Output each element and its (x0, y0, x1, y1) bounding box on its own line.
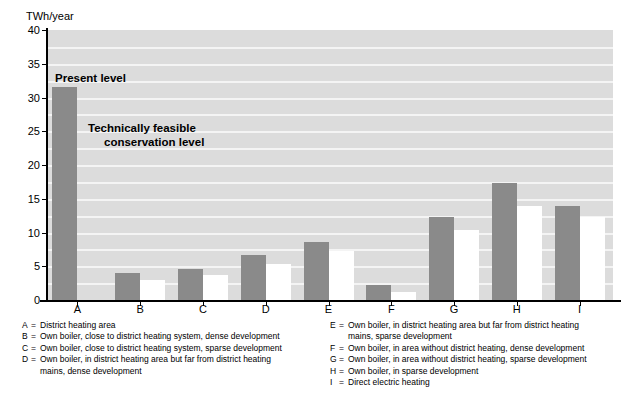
annotation-present-level: Present level (55, 71, 126, 85)
legend-equals: = (339, 343, 348, 354)
bar-present-level (429, 217, 454, 300)
y-tick-mark (42, 165, 47, 166)
bar-conservation-level (266, 264, 291, 300)
gridline (48, 182, 613, 184)
y-tick-mark (42, 64, 47, 65)
legend-equals: = (31, 331, 40, 342)
legend-description-continued: mains, sparse development (348, 331, 579, 342)
x-tick-mark (266, 302, 267, 306)
gridline (48, 81, 613, 83)
legend-entry-h: H=Own boiler, in sparse development (330, 366, 630, 377)
annotation-conservation-line2: conservation level (104, 135, 204, 149)
bar-present-level (366, 285, 391, 300)
y-tick-label: 20 (0, 160, 40, 171)
legend-key: C (22, 343, 31, 354)
bar-conservation-level (329, 251, 354, 300)
y-tick-label: 35 (0, 59, 40, 70)
y-tick-label: 10 (0, 228, 40, 239)
gridline (48, 64, 613, 66)
x-tick-mark (203, 302, 204, 306)
legend-key: E (330, 320, 339, 331)
legend-equals: = (339, 377, 348, 388)
annotation-conservation-line1: Technically feasible (88, 122, 196, 134)
legend-column-right: E=Own boiler, in district heating area b… (330, 320, 630, 388)
bar-present-level (304, 242, 329, 300)
legend-description: Own boiler, close to district heating sy… (40, 343, 282, 354)
legend-equals: = (31, 343, 40, 354)
x-tick-mark (329, 302, 330, 306)
gridline (48, 47, 613, 49)
plot-area (48, 30, 613, 300)
legend-equals: = (339, 354, 348, 365)
bar-conservation-level (517, 206, 542, 300)
legend-entry-d: D=Own boiler, in district heating area b… (22, 354, 322, 377)
bar-present-level (241, 255, 266, 300)
legend-entry-e: E=Own boiler, in district heating area b… (330, 320, 630, 343)
x-tick-mark (517, 302, 518, 306)
annotation-conservation-level: Technically feasible conservation level (88, 121, 204, 149)
legend-description: District heating area (40, 320, 116, 331)
legend-key: G (330, 354, 339, 365)
legend-equals: = (31, 320, 40, 331)
y-tick-mark (42, 30, 47, 31)
bar-present-level (555, 206, 580, 300)
y-tick-mark (42, 300, 47, 301)
legend-key: I (330, 377, 339, 388)
legend-key: H (330, 366, 339, 377)
bar-present-level (492, 183, 517, 300)
legend-description: Own boiler, in district heating area but… (348, 320, 579, 343)
x-tick-mark (77, 302, 78, 306)
bar-present-level (115, 273, 140, 300)
legend-key: B (22, 331, 31, 342)
bar-present-level (52, 87, 77, 300)
x-axis-line (40, 300, 621, 302)
legend-entry-b: B=Own boiler, close to district heating … (22, 331, 322, 342)
bar-present-level (178, 269, 203, 300)
bar-conservation-level (454, 230, 479, 300)
bar-conservation-level (203, 275, 228, 300)
gridline (48, 165, 613, 167)
legend-entry-c: C=Own boiler, close to district heating … (22, 343, 322, 354)
legend-equals: = (31, 354, 40, 365)
y-tick-mark (42, 131, 47, 132)
legend-description: Direct electric heating (348, 377, 430, 388)
bar-conservation-level (580, 217, 605, 300)
legend-entry-a: A=District heating area (22, 320, 322, 331)
legend-equals: = (339, 366, 348, 377)
legend-entry-g: G=Own boiler, in area without district h… (330, 354, 630, 365)
y-axis-title: TWh/year (26, 10, 74, 23)
y-tick-mark (42, 266, 47, 267)
legend-column-left: A=District heating areaB=Own boiler, clo… (22, 320, 322, 377)
y-tick-label: 25 (0, 126, 40, 137)
legend-key: A (22, 320, 31, 331)
legend-entry-i: I=Direct electric heating (330, 377, 630, 388)
y-tick-label: 0 (0, 295, 40, 306)
y-tick-mark (42, 233, 47, 234)
bar-conservation-level (391, 292, 416, 300)
legend-description: Own boiler, in sparse development (348, 366, 478, 377)
legend-description: Own boiler, in area without district hea… (348, 343, 584, 354)
gridline (48, 199, 613, 201)
legend-description: Own boiler, close to district heating sy… (40, 331, 280, 342)
x-tick-mark (140, 302, 141, 306)
y-tick-label: 40 (0, 25, 40, 36)
legend: A=District heating areaB=Own boiler, clo… (0, 320, 632, 401)
legend-equals: = (339, 320, 348, 331)
y-tick-label: 15 (0, 194, 40, 205)
x-tick-mark (391, 302, 392, 306)
y-tick-label: 30 (0, 93, 40, 104)
legend-key: F (330, 343, 339, 354)
legend-description: Own boiler, in district heating area but… (40, 354, 271, 377)
bar-conservation-level (140, 280, 165, 300)
legend-key: D (22, 354, 31, 365)
gridline (48, 98, 613, 100)
legend-description-continued: mains, dense development (40, 366, 271, 377)
y-tick-mark (42, 199, 47, 200)
x-tick-mark (580, 302, 581, 306)
legend-entry-f: F=Own boiler, in area without district h… (330, 343, 630, 354)
bar-chart-figure: TWh/year 0510152025303540 ABCDEFGHI Pres… (0, 0, 632, 318)
gridline (48, 114, 613, 116)
y-tick-mark (42, 98, 47, 99)
x-tick-mark (454, 302, 455, 306)
legend-description: Own boiler, in area without district hea… (348, 354, 587, 365)
